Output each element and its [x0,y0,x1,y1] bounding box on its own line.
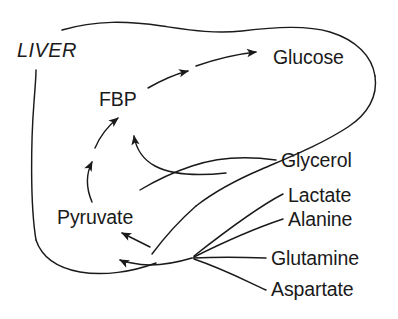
lower-to-fbp-arrow [95,118,118,148]
glycerol-to-fbp-curve [134,136,226,175]
fbp-to-glucose-arrow-1 [148,71,188,88]
precursor-to-pyruvate-arrow [122,233,150,247]
pyruvate-to-fbp-arrow [88,162,93,202]
node-label-glucose: Glucose [273,47,344,67]
node-label-glutamine: Glutamine [271,248,359,268]
organ-label-liver: LIVER [17,40,77,60]
substrates-to-pyruvate-arrow [120,258,192,265]
node-label-fbp: FBP [99,89,137,109]
alanine-line [194,219,283,257]
liver-outline-cleft [152,206,196,254]
aspartate-line [194,259,266,290]
node-label-glycerol: Glycerol [281,150,352,170]
liver-gluconeogenesis-diagram: LIVER FBP Glucose Pyruvate Glycerol Lact… [0,0,398,319]
node-label-alanine: Alanine [288,209,352,229]
lactate-line [194,194,283,256]
node-label-pyruvate: Pyruvate [57,207,133,227]
node-label-lactate: Lactate [288,185,351,205]
liver-outline-bottom [36,240,156,274]
node-label-aspartate: Aspartate [271,279,354,299]
glutamine-line [193,257,266,258]
liver-outline-left [32,70,36,240]
fbp-to-glucose-arrow-2 [196,52,256,66]
